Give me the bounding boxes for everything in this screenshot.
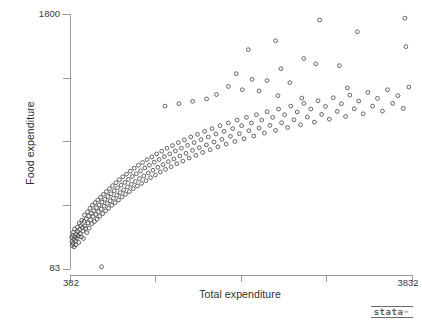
data-point <box>247 129 251 133</box>
data-point <box>163 104 167 108</box>
data-point <box>152 160 156 164</box>
data-point <box>257 89 261 93</box>
chart-canvas: Food expenditure Total expenditure 1800 … <box>0 0 422 328</box>
data-point <box>130 175 134 179</box>
data-point <box>116 186 120 190</box>
data-point <box>153 173 157 177</box>
data-point <box>181 159 185 163</box>
data-point <box>165 146 169 150</box>
data-point <box>403 16 407 20</box>
data-point <box>77 241 81 245</box>
data-point <box>203 129 207 133</box>
data-point <box>265 79 269 83</box>
data-point <box>91 215 95 219</box>
data-point <box>173 149 177 153</box>
data-point <box>288 81 292 85</box>
data-point <box>234 72 238 76</box>
data-point <box>199 138 203 142</box>
data-point <box>222 129 226 133</box>
data-point <box>175 162 179 166</box>
data-point <box>305 115 309 119</box>
data-point <box>345 86 349 90</box>
data-point <box>210 127 214 131</box>
data-point <box>110 203 114 207</box>
logo-bar-bottom <box>371 317 413 318</box>
data-point <box>280 121 284 125</box>
data-point <box>338 64 342 68</box>
data-point <box>252 134 256 138</box>
data-point <box>156 165 160 169</box>
data-point <box>100 265 104 269</box>
data-point <box>348 93 352 97</box>
data-point <box>148 163 152 167</box>
x-axis-title: Total expenditure <box>60 288 420 300</box>
data-point <box>177 102 181 106</box>
data-point <box>250 121 254 125</box>
data-point <box>231 127 235 131</box>
data-point <box>196 132 200 136</box>
data-point <box>112 196 116 200</box>
data-point <box>344 115 348 119</box>
data-point <box>295 110 299 114</box>
data-point <box>115 193 119 197</box>
data-point <box>283 113 287 117</box>
data-point <box>279 67 283 71</box>
data-point <box>316 99 320 103</box>
data-point <box>302 57 306 61</box>
data-point <box>169 165 173 169</box>
data-point <box>191 99 195 103</box>
data-point <box>128 169 132 173</box>
data-point <box>404 45 408 49</box>
data-point <box>235 118 239 122</box>
data-point <box>145 158 149 162</box>
data-point <box>233 140 237 144</box>
data-point <box>224 142 228 146</box>
data-point <box>83 213 87 217</box>
data-point <box>242 137 246 141</box>
data-point <box>327 117 331 121</box>
data-point <box>139 169 143 173</box>
trademark-symbol: ™ <box>403 309 408 315</box>
data-point <box>140 181 144 185</box>
data-point <box>155 152 159 156</box>
y-axis-ticks <box>63 14 70 269</box>
data-point <box>112 189 116 193</box>
data-point <box>124 192 128 196</box>
data-point <box>138 177 142 181</box>
data-point <box>162 155 166 159</box>
data-point <box>197 146 201 150</box>
data-point <box>355 30 359 34</box>
data-point <box>125 172 129 176</box>
data-point <box>166 160 170 164</box>
data-point <box>176 141 180 145</box>
data-point <box>118 191 122 195</box>
data-point <box>114 181 118 185</box>
data-point <box>206 135 210 139</box>
data-point <box>381 109 385 113</box>
data-point <box>245 115 249 119</box>
data-point <box>133 180 137 184</box>
data-point <box>391 102 395 106</box>
data-point <box>366 91 370 95</box>
data-point <box>205 143 209 147</box>
data-point <box>103 197 107 201</box>
data-point <box>134 172 138 176</box>
data-point <box>274 39 278 43</box>
data-point <box>123 181 127 185</box>
data-point <box>107 206 111 210</box>
data-point <box>186 143 190 147</box>
data-point <box>129 182 133 186</box>
data-point <box>401 107 405 111</box>
data-point <box>120 195 124 199</box>
axes-group <box>63 14 412 282</box>
data-point <box>143 166 147 170</box>
data-point <box>407 85 411 89</box>
data-point <box>352 107 356 111</box>
data-point <box>271 115 275 119</box>
data-point <box>192 141 196 145</box>
data-point <box>146 171 150 175</box>
data-point <box>302 102 306 106</box>
data-point <box>274 129 278 133</box>
data-point <box>168 152 172 156</box>
data-point <box>161 163 165 167</box>
